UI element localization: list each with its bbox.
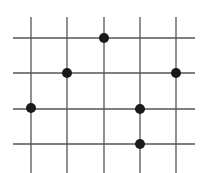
grid-point-dot bbox=[135, 104, 145, 114]
grid-point-dot bbox=[62, 68, 72, 78]
grid-point-dot bbox=[135, 139, 145, 149]
grid-point-dot bbox=[171, 68, 181, 78]
grid-diagram bbox=[0, 0, 206, 173]
grid-point-dot bbox=[99, 33, 109, 43]
grid-point-dot bbox=[26, 103, 36, 113]
